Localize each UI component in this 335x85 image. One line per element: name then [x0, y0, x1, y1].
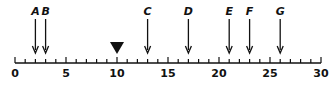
number-line-diagram: 051015202530ABCDEFG — [0, 0, 335, 85]
arrow-label-a: A — [30, 5, 40, 18]
arrow-label-f: F — [246, 5, 254, 18]
tick-label: 15 — [160, 67, 175, 80]
tick-label: 20 — [211, 67, 227, 80]
arrow-label-c: C — [144, 5, 152, 18]
tick-label: 5 — [62, 67, 70, 80]
arrow-label-d: D — [184, 5, 193, 18]
tick-label: 25 — [262, 67, 277, 80]
tick-label: 10 — [109, 67, 125, 80]
arrow-label-b: B — [41, 5, 49, 18]
number-line-canvas: 051015202530ABCDEFG — [0, 0, 335, 85]
tick-label: 0 — [11, 67, 19, 80]
arrow-label-e: E — [225, 5, 233, 18]
arrow-label-g: G — [276, 5, 285, 18]
triangle-marker-icon — [110, 42, 124, 54]
tick-label: 30 — [313, 67, 329, 80]
